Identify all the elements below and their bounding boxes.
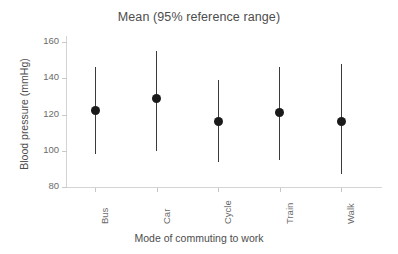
x-tick-mark xyxy=(218,188,219,192)
y-tick-label: 80 xyxy=(33,181,59,191)
y-tick-mark xyxy=(62,187,67,188)
y-tick-label-wrap: 140 xyxy=(31,72,59,84)
y-tick-label: 100 xyxy=(33,145,59,155)
y-tick-mark xyxy=(62,42,67,43)
x-tick-label: Walk xyxy=(345,203,356,224)
y-tick-label: 160 xyxy=(33,36,59,46)
x-tick-mark xyxy=(341,188,342,192)
y-tick-label-wrap: 80 xyxy=(31,181,59,193)
mean-marker[interactable] xyxy=(214,117,223,126)
chart-title: Mean (95% reference range) xyxy=(0,10,398,24)
y-tick-mark xyxy=(62,78,67,79)
y-tick-label-wrap: 160 xyxy=(31,36,59,48)
mean-marker[interactable] xyxy=(337,117,346,126)
y-tick-mark xyxy=(62,115,67,116)
x-tick-label: Train xyxy=(284,203,295,224)
y-tick-label-wrap: 120 xyxy=(31,109,59,121)
mean-marker[interactable] xyxy=(91,106,100,115)
x-tick-mark xyxy=(280,188,281,192)
x-tick-mark xyxy=(95,188,96,192)
y-tick-label: 120 xyxy=(33,109,59,119)
mean-marker[interactable] xyxy=(152,94,161,103)
x-tick-label: Bus xyxy=(99,208,110,224)
y-tick-label-wrap: 100 xyxy=(31,145,59,157)
x-axis-title: Mode of commuting to work xyxy=(0,232,398,244)
chart-figure: Mean (95% reference range) 8010012014016… xyxy=(0,0,398,254)
x-tick-mark xyxy=(157,188,158,192)
y-tick-label: 140 xyxy=(33,72,59,82)
y-tick-mark xyxy=(62,151,67,152)
y-axis-line xyxy=(66,36,67,188)
y-axis-title: Blood pressure (mmHg) xyxy=(18,34,30,194)
x-tick-label: Cycle xyxy=(222,200,233,224)
x-tick-label: Car xyxy=(161,209,172,224)
mean-marker[interactable] xyxy=(275,108,284,117)
x-axis-line xyxy=(66,187,382,188)
